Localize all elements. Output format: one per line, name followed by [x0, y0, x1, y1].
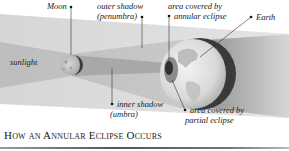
moon-label: Moon [47, 2, 67, 11]
earth-globe [160, 38, 236, 110]
divider-rule [0, 147, 289, 149]
annular-area-label-line1: area covered by [168, 2, 222, 11]
inner-shadow-label: inner shadow [117, 100, 163, 109]
diagram-caption: How an Annular Eclipse Occurs [4, 129, 162, 141]
earth-label: Earth [256, 13, 275, 22]
partial-area-label-line1: area covered by [190, 106, 244, 115]
moon-sphere [60, 55, 83, 75]
umbra-label: (umbra) [110, 110, 138, 119]
outer-shadow-label: outer shadow [97, 2, 143, 11]
annular-eclipse-diagram: Moon outer shadow (penumbra) area covere… [0, 0, 289, 151]
penumbra-label: (penumbra) [97, 12, 137, 21]
sunlight-label: sunlight [10, 58, 37, 67]
partial-area-label-line2: partial eclipse [185, 116, 234, 125]
annular-area-label-line2: annular eclipse [174, 12, 227, 21]
